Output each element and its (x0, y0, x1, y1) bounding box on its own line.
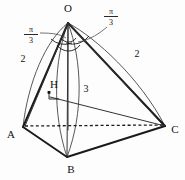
angle-left-numerator: π (29, 25, 33, 34)
angle-left-denominator: 3 (29, 36, 33, 45)
vertex-label-H: H (50, 78, 58, 90)
arc-O-to-B-right (67, 23, 79, 157)
pyramid-diagram: O A B C H 2 2 3 π 3 π 3 (0, 0, 185, 180)
vertex-label-O: O (64, 2, 72, 14)
vertex-label-C: C (171, 123, 178, 135)
right-angle-vertex-dot (48, 91, 51, 94)
edge-O-C-inner (68, 23, 163, 125)
angle-label-right: π 3 (104, 7, 118, 27)
vertex-label-A: A (7, 128, 15, 140)
length-label-HC: 3 (84, 83, 89, 94)
length-label-OA: 2 (21, 53, 26, 64)
geometry-figure: O A B C H 2 2 3 π 3 π 3 (0, 0, 185, 180)
angle-label-left: π 3 (24, 25, 38, 45)
edge-B-C (67, 126, 165, 157)
edge-A-C-hidden (25, 125, 163, 126)
angle-right-denominator: 3 (109, 18, 113, 27)
length-label-OC: 2 (135, 48, 140, 59)
vertex-label-B: B (67, 163, 74, 175)
angle-right-numerator: π (109, 7, 113, 16)
